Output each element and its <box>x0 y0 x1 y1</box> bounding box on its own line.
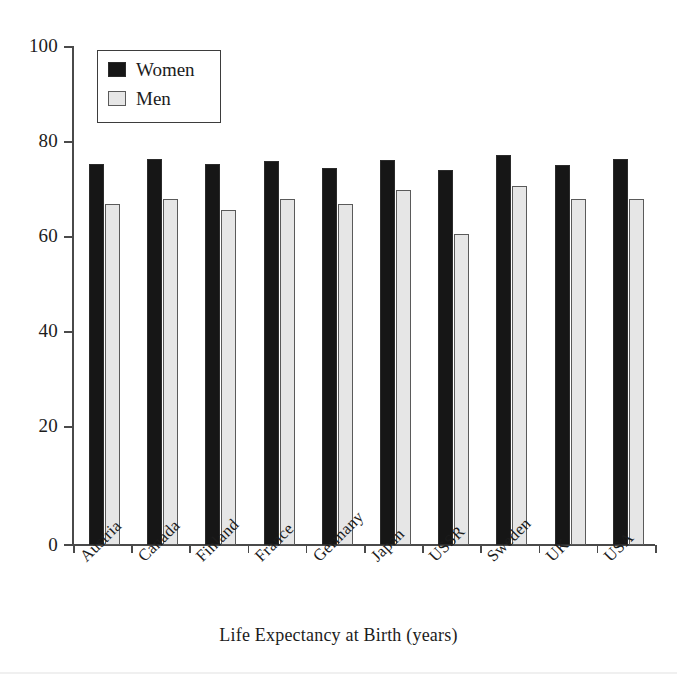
bar-uk-men <box>571 199 586 545</box>
bar-finland-women <box>205 164 220 545</box>
x-axis-tick <box>480 545 482 553</box>
bar-finland-men <box>221 210 236 545</box>
x-axis-tick <box>655 545 657 553</box>
x-axis-tick <box>73 545 75 553</box>
y-axis-tick <box>64 236 73 238</box>
y-tick-label: 40 <box>39 320 58 342</box>
bar-canada-men <box>163 199 178 545</box>
x-axis-tick <box>597 545 599 553</box>
x-axis-tick <box>131 545 133 553</box>
y-axis-tick-labels: 100 80 60 40 20 0 <box>0 0 58 680</box>
bar-austria-men <box>105 204 120 545</box>
y-tick-label: 60 <box>39 225 58 247</box>
bar-japan-women <box>380 160 395 545</box>
bar-ussr-women <box>438 170 453 545</box>
bar-sweden-men <box>512 186 527 545</box>
x-axis-tick <box>364 545 366 553</box>
bar-germany-men <box>338 204 353 545</box>
bar-usa-men <box>629 199 644 545</box>
x-axis-tick <box>248 545 250 553</box>
legend-label-women: Women <box>136 60 195 79</box>
legend-item-women: Women <box>108 60 195 79</box>
y-tick-label: 100 <box>29 35 58 57</box>
bar-japan-men <box>396 190 411 545</box>
bar-france-men <box>280 199 295 545</box>
y-axis-tick <box>64 141 73 143</box>
x-axis-title: Life Expectancy at Birth (years) <box>0 625 677 646</box>
legend-swatch-men-icon <box>108 91 126 106</box>
y-axis-tick <box>64 46 73 48</box>
y-axis-tick <box>64 426 73 428</box>
y-tick-label: 20 <box>39 415 58 437</box>
y-axis-tick <box>64 331 73 333</box>
legend: Women Men <box>97 50 221 123</box>
bar-ussr-men <box>454 234 469 545</box>
bar-sweden-women <box>496 155 511 545</box>
legend-label-men: Men <box>136 89 171 108</box>
bar-chart-figure: 100 80 60 40 20 0 AustriaCanadaFinlandFr… <box>0 0 677 680</box>
bar-uk-women <box>555 165 570 545</box>
bar-canada-women <box>147 159 162 545</box>
bar-austria-women <box>89 164 104 545</box>
x-axis-tick <box>306 545 308 553</box>
x-axis-tick <box>422 545 424 553</box>
y-tick-label: 0 <box>48 534 58 556</box>
x-axis-tick <box>189 545 191 553</box>
bar-germany-women <box>322 168 337 545</box>
y-tick-label: 80 <box>39 130 58 152</box>
bar-france-women <box>264 161 279 545</box>
x-axis-tick <box>539 545 541 553</box>
page-scan-edge <box>0 672 677 674</box>
y-axis-tick <box>64 544 73 546</box>
legend-swatch-women-icon <box>108 62 126 77</box>
bar-usa-women <box>613 159 628 545</box>
legend-item-men: Men <box>108 89 171 108</box>
